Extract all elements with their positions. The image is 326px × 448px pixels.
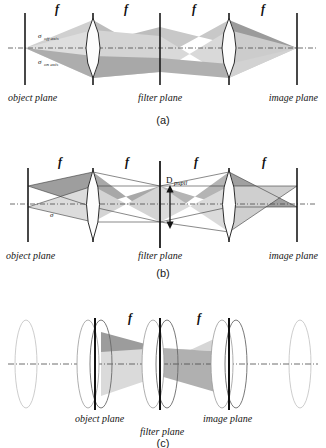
f-label-a-3: f	[192, 2, 197, 16]
panel-b-object-plane-label: object plane	[6, 250, 56, 261]
f-label-b-1: f	[58, 155, 63, 169]
panel-a: f f f f σ off axis σ on axis object plan…	[8, 2, 319, 126]
panel-c-object-plane-label: object plane	[75, 413, 125, 424]
panel-c: f f object plane filter plane image plan…	[8, 311, 318, 448]
f-label-a-4: f	[261, 2, 266, 16]
panel-c-image-plane-label: image plane	[203, 413, 253, 424]
panel-a-filter-plane-label: filter plane	[138, 92, 183, 103]
sigma-off-axis-annotation: σ off axis	[38, 32, 59, 41]
sigma-on-axis-subscript: on axis	[44, 62, 58, 67]
panel-c-caption: (c)	[157, 437, 170, 448]
f-label-b-2: f	[125, 155, 130, 169]
f-label-a-1: f	[55, 2, 60, 16]
panel-b-filter-plane-label: filter plane	[138, 250, 183, 261]
sigma-off-axis-symbol: σ	[38, 32, 42, 40]
pupil-diameter-symbol: D	[166, 175, 173, 185]
sigma-on-axis-symbol: σ	[38, 58, 42, 66]
f-label-a-2: f	[124, 2, 129, 16]
f-label-c-1: f	[128, 311, 133, 325]
panel-b-caption: (b)	[156, 267, 169, 279]
panel-a-image-plane-label: image plane	[269, 92, 319, 103]
panel-a-caption: (a)	[156, 114, 169, 126]
pupil-diameter-subscript: pupil	[173, 179, 188, 186]
panel-c-filter-plane-label: filter plane	[140, 426, 185, 437]
f-label-b-4: f	[262, 155, 267, 169]
panel-b-image-plane-label: image plane	[269, 250, 319, 261]
f-label-b-3: f	[194, 155, 199, 169]
panel-a-object-plane-label: object plane	[8, 92, 58, 103]
f-label-c-2: f	[197, 311, 202, 325]
optical-system-figure: f f f f σ off axis σ on axis object plan…	[0, 0, 326, 448]
sigma-off-axis-subscript: off axis	[44, 36, 59, 41]
panel-b: D pupil σ f f f f object plane filter pl…	[6, 155, 319, 279]
sigma-b-symbol: σ	[50, 211, 54, 219]
